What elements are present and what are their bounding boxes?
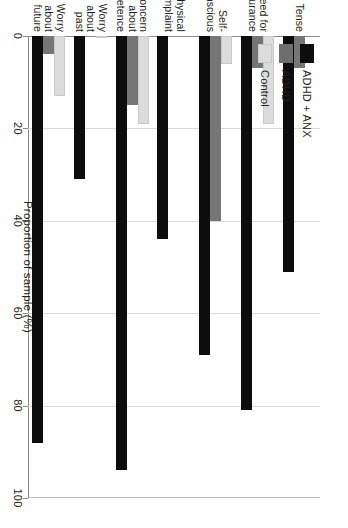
bar-adhd-worry-about-future xyxy=(43,36,54,54)
category-label-need-for-reassurance: Need for reassurance xyxy=(246,0,269,32)
bar-adhd-anx-physical-complaint xyxy=(158,36,169,239)
value-axis-zero-line xyxy=(28,36,320,37)
legend-swatch-icon xyxy=(279,44,293,63)
category-label-concern-about-competence: Concern about competence xyxy=(115,0,150,32)
chart-figure: Worry about futureWorry about pastConcer… xyxy=(0,0,348,528)
value-axis-end-line xyxy=(28,497,320,498)
bar-control-concern-about-competence xyxy=(138,36,149,124)
rotated-figure-wrapper: Worry about futureWorry about pastConcer… xyxy=(0,0,348,528)
category-label-worry-about-future: Worry about future xyxy=(32,4,67,32)
bar-control-worry-about-future xyxy=(54,36,65,96)
legend-label: ADHD xyxy=(280,70,292,102)
legend-swatch-icon xyxy=(300,44,314,63)
bar-control-self-conscious xyxy=(221,36,232,64)
category-label-worry-about-past: Worry about past xyxy=(73,4,108,32)
gridline xyxy=(28,313,320,314)
bar-adhd-anx-worry-about-future xyxy=(32,36,43,443)
bar-adhd-anx-concern-about-competence xyxy=(116,36,127,470)
legend-item-adhd-anx: ADHD + ANX xyxy=(300,44,314,138)
bar-adhd-self-conscious xyxy=(210,36,221,221)
category-label-physical-complaint: Physical complaint xyxy=(163,0,186,32)
chart-legend: ADHD + ANXADHDControl xyxy=(258,44,314,138)
legend-label: Control xyxy=(259,70,271,107)
bar-control-worry-about-past xyxy=(96,36,107,38)
bar-adhd-anx-worry-about-past xyxy=(74,36,85,179)
gridline xyxy=(28,406,320,407)
legend-item-adhd: ADHD xyxy=(279,44,293,138)
bar-adhd-anx-self-conscious xyxy=(199,36,210,355)
legend-label: ADHD + ANX xyxy=(301,70,313,138)
category-label-self-conscious: Self- conscious xyxy=(204,0,227,32)
value-axis-title: Proportion of sample (%) xyxy=(22,36,34,498)
gridline xyxy=(28,221,320,222)
category-label-tense: Tense xyxy=(293,3,305,32)
legend-item-control: Control xyxy=(258,44,272,138)
bar-adhd-concern-about-competence xyxy=(127,36,138,105)
legend-swatch-icon xyxy=(258,44,272,63)
bar-adhd-anx-need-for-reassurance xyxy=(241,36,252,410)
